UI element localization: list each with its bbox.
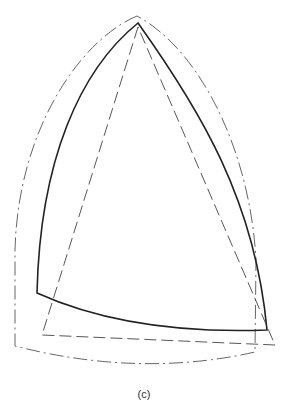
curved-triangle xyxy=(37,23,267,331)
outer-boundary xyxy=(15,16,256,364)
diagram xyxy=(0,0,288,411)
straight-triangle xyxy=(42,27,275,345)
figure-caption: (c) xyxy=(0,388,288,400)
